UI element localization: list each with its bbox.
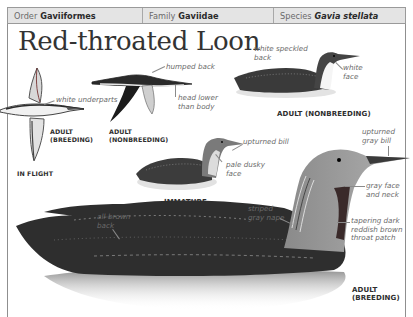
page-title: Red-throated Loon [18, 26, 260, 56]
note-line: and neck [366, 191, 400, 200]
species-cell: Species Gavia stellata [273, 8, 405, 23]
note-upturned-bill: upturned bill [243, 138, 289, 147]
species-label: Species [280, 11, 312, 21]
family-label: Family [149, 11, 175, 21]
note-upturned-gray-bill: upturned gray bill [362, 128, 395, 145]
note-humped-back: humped back [166, 63, 215, 72]
note-white-speckled-back: white speckled back [254, 45, 308, 62]
note-head-lower: head lower than body [178, 94, 218, 111]
family-value: Gaviidae [178, 11, 218, 21]
note-line: back [254, 54, 308, 63]
note-line: gray bill [362, 137, 395, 146]
caption-line: (BREEDING) [50, 136, 93, 144]
order-label: Order [14, 11, 37, 21]
note-gray-face-neck: gray face and neck [366, 182, 400, 199]
note-line: back [97, 222, 130, 231]
note-line: throat patch [351, 234, 402, 243]
note-striped-gray-nape: striped gray nape [248, 205, 284, 222]
note-line: than body [178, 103, 218, 112]
order-value: Gaviiformes [40, 11, 95, 21]
note-white-face: white face [343, 64, 363, 81]
family-cell: Family Gaviidae [142, 8, 273, 23]
note-throat-patch: tapering dark reddish brown throat patch [351, 217, 402, 243]
caption-adult-breeding: ADULT (BREEDING) [352, 287, 400, 302]
leader-line [345, 186, 365, 187]
taxonomy-header: Order Gaviiformes Family Gaviidae Specie… [7, 7, 406, 24]
leader-line [388, 146, 389, 156]
note-all-brown-back: all-brown back [97, 213, 130, 230]
order-cell: Order Gaviiformes [8, 8, 142, 23]
note-line: face [343, 73, 363, 82]
caption-line: ADULT [50, 128, 93, 136]
field-guide-page: Order Gaviiformes Family Gaviidae Specie… [0, 0, 413, 317]
leader-line [175, 85, 176, 97]
species-value: Gavia stellata [315, 11, 379, 21]
caption-flight-breeding: ADULT (BREEDING) [50, 128, 93, 143]
leader-line [337, 222, 350, 223]
caption-line: (BREEDING) [352, 295, 400, 303]
caption-adult-nonbreeding: ADULT (NONBREEDING) [277, 111, 371, 119]
